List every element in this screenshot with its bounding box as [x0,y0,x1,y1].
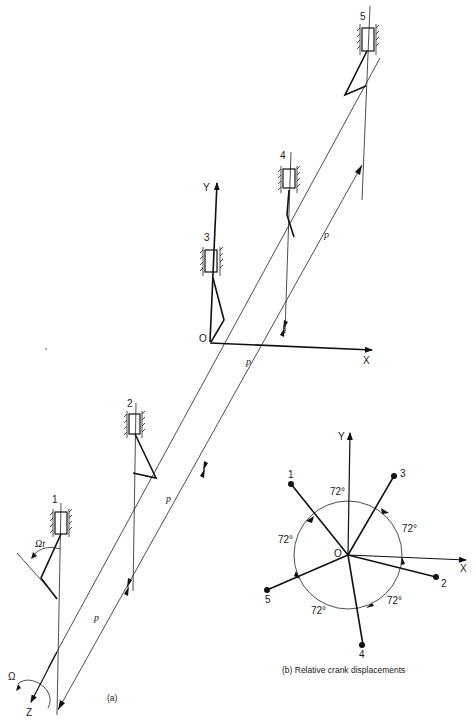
angle-72-left: 72° [278,534,293,545]
crank-1: 1 [288,469,348,555]
b-y-axis-arrow [348,433,350,555]
crankshaft-diagram: Z Ω Y X O p p p p [0,0,476,722]
svg-text:2: 2 [441,578,447,589]
pitch-label-4: p [323,229,329,240]
rotation-arrow-icon [18,680,50,708]
x-axis-arrow [210,343,372,350]
svg-text:3: 3 [400,468,406,479]
crank-3: 3 [348,468,406,555]
crank-5: 5 [264,555,348,605]
panel-a-caption: (a) [107,693,118,703]
pitch-label-1: p [93,612,99,623]
svg-text:4: 4 [359,649,365,660]
y-axis-arrow [210,183,217,342]
pitch-label-2: p [165,493,171,504]
cylinder-4: 4 [278,150,300,333]
cylinder-1-label: 1 [52,494,58,505]
cylinder-3-label: 3 [204,232,210,243]
angle-72-right: 72° [402,523,417,534]
cylinder-5-label: 5 [360,11,366,22]
panel-b: Y X O 1 3 2 4 5 [264,431,467,675]
pitch-label-3: p [245,356,251,367]
b-x-axis-label: X [460,563,467,574]
y-axis-label: Y [203,182,210,193]
cylinder-5: 5 [345,6,379,200]
cylinder-4-label: 4 [280,150,286,161]
b-y-axis-label: Y [338,431,345,442]
rotation-label: Ω [8,671,16,682]
angle-72-top: 72° [330,486,345,497]
origin-label: O [199,333,207,344]
angle-72-bottom-left: 72° [311,605,326,616]
pitch-dimension-line [58,165,362,710]
svg-text:5: 5 [265,594,271,605]
shaft-axis-line [48,58,380,668]
cylinder-2: 2 [124,398,156,591]
angle-label: Ωt [35,538,45,549]
angle-72-bottom-right: 72° [387,595,402,606]
crank-4: 4 [348,555,365,660]
crank-2: 2 [348,555,447,589]
z-axis-label: Z [26,707,32,718]
cylinder-2-label: 2 [127,398,133,409]
panel-b-caption: (b) Relative crank displacements [282,665,405,675]
svg-text:1: 1 [288,469,294,480]
z-axis-arrow [31,652,57,702]
x-axis-label: X [363,355,370,366]
cylinder-1: 1 Ωt [17,494,72,715]
